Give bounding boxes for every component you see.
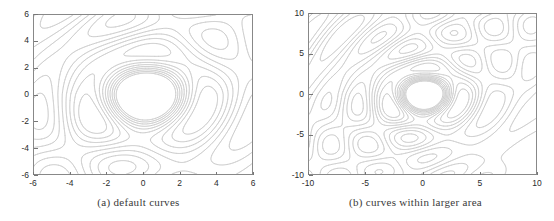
y-tick-mark <box>34 14 38 15</box>
y-tick-mark <box>309 175 313 176</box>
contour-canvas-b <box>309 14 537 175</box>
y-tick-label: 0 <box>282 90 304 99</box>
x-tick-label: -4 <box>56 179 84 188</box>
y-tick-mark <box>309 13 313 14</box>
caption-a: (a) default curves <box>0 196 277 208</box>
y-tick-label: -10 <box>282 171 304 180</box>
contour-level-line <box>309 14 536 174</box>
y-tick-mark <box>309 94 313 95</box>
y-tick-label: 0 <box>7 90 29 99</box>
x-tick-mark <box>216 172 217 176</box>
contour-level-line <box>34 15 252 174</box>
x-tick-mark <box>423 172 424 176</box>
x-tick-label: -5 <box>351 179 379 188</box>
x-tick-label: 2 <box>166 179 194 188</box>
contour-level-line <box>34 15 252 174</box>
y-tick-mark <box>34 121 38 122</box>
y-tick-mark <box>34 148 38 149</box>
y-tick-label: -5 <box>282 130 304 139</box>
x-tick-label: 10 <box>523 179 551 188</box>
figure-two-contour-plots: -6-4-20246-6-4-20246 (a) default curves … <box>0 0 554 221</box>
contour-level-line <box>309 14 536 174</box>
y-tick-label: 10 <box>282 9 304 18</box>
x-tick-mark <box>253 172 254 176</box>
plot-area-a <box>33 14 253 175</box>
y-tick-mark <box>309 135 313 136</box>
x-tick-label: 4 <box>202 179 230 188</box>
x-tick-mark <box>480 172 481 176</box>
x-tick-label: 0 <box>129 179 157 188</box>
x-tick-mark <box>537 172 538 176</box>
contour-level-line <box>309 14 536 174</box>
x-tick-label: 6 <box>239 179 267 188</box>
contour-level-line <box>406 81 443 109</box>
panel-a: -6-4-20246-6-4-20246 (a) default curves <box>0 0 277 221</box>
x-tick-label: 0 <box>409 179 437 188</box>
contour-level-line <box>34 15 180 174</box>
x-tick-label: -2 <box>92 179 120 188</box>
y-tick-label: 6 <box>7 10 29 19</box>
y-tick-label: -6 <box>7 171 29 180</box>
y-tick-mark <box>34 175 38 176</box>
y-tick-label: 5 <box>282 49 304 58</box>
x-tick-mark <box>106 172 107 176</box>
x-tick-label: 5 <box>466 179 494 188</box>
contour-level-line <box>34 15 252 174</box>
x-tick-label: -6 <box>19 179 47 188</box>
panel-b: -10-50510-10-50510 (b) curves within lar… <box>277 0 554 221</box>
y-tick-label: -2 <box>7 117 29 126</box>
y-tick-label: 2 <box>7 63 29 72</box>
plot-area-b <box>308 13 537 175</box>
y-tick-label: -4 <box>7 144 29 153</box>
x-tick-mark <box>365 172 366 176</box>
y-tick-mark <box>34 95 38 96</box>
x-tick-mark <box>180 172 181 176</box>
x-tick-mark <box>70 172 71 176</box>
x-tick-label: -10 <box>294 179 322 188</box>
y-tick-mark <box>34 41 38 42</box>
contour-level-line <box>309 14 536 163</box>
x-tick-mark <box>143 172 144 176</box>
contour-canvas-a <box>34 15 253 175</box>
y-tick-mark <box>309 54 313 55</box>
y-tick-mark <box>34 68 38 69</box>
caption-b: (b) curves within larger area <box>277 196 554 208</box>
y-tick-label: 4 <box>7 36 29 45</box>
contour-level-line <box>116 73 176 120</box>
